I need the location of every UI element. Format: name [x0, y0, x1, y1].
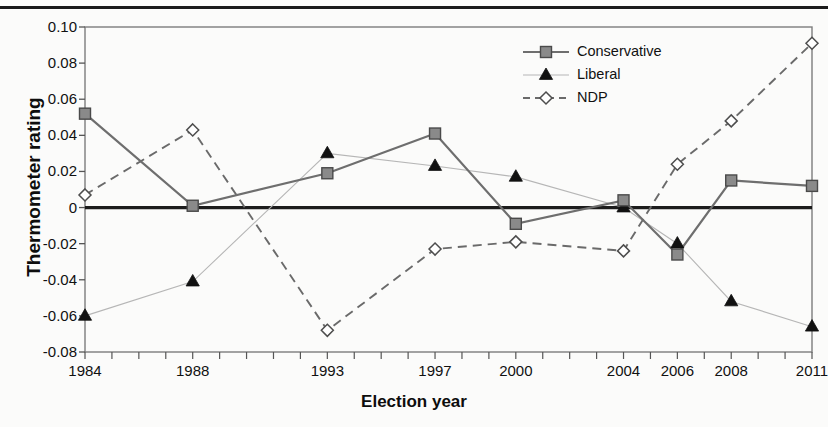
legend-marker	[541, 47, 552, 58]
legend-marker	[540, 92, 552, 104]
legend-symbols	[0, 0, 828, 427]
legend-marker	[539, 68, 552, 79]
chart-figure: Thermometer rating Election year -0.08-0…	[0, 0, 828, 427]
